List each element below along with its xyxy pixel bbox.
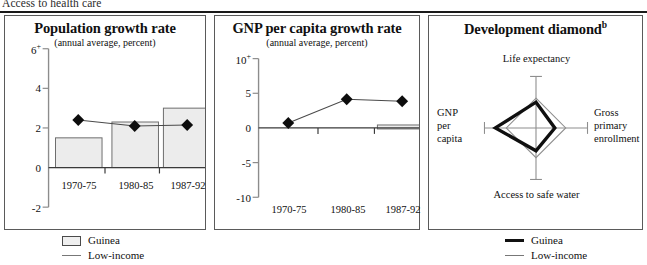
legend-left-row-guinea: Guinea (62, 233, 144, 248)
population-ylabel-2: 2 (7, 122, 41, 134)
legend-right: Guinea Low-income (505, 233, 587, 263)
page-top-caption: Access to health care (2, 0, 101, 9)
population-xlabel-1987-92: 1987-92 (157, 180, 219, 191)
legend-left-lowincome-label: Low-income (88, 249, 144, 262)
diamond-enrollment-line-3: enrollment (594, 132, 646, 145)
legend-right-guinea-label: Guinea (531, 234, 563, 247)
legend-left: Guinea Low-income (62, 233, 144, 263)
gnp-xlabel-1987-92: 1987-92 (372, 204, 434, 215)
diamond-axis-label-gnp-per-capita: GNP per capita (437, 106, 481, 145)
gnp-ylabel-0: 0 (215, 122, 251, 134)
population-bar-1970-75 (55, 138, 102, 168)
diamond-enrollment-line-2: primary (594, 119, 646, 132)
diamond-gnp-line-1: GNP (437, 106, 481, 119)
legend-thin-line-swatch-icon (505, 255, 524, 256)
diamond-enrollment-line-1: Gross (594, 106, 646, 119)
population-xlabel-1970-75: 1970-75 (48, 180, 110, 191)
diamond-gnp-line-2: per (437, 119, 481, 132)
top-horizontal-rule (0, 11, 647, 13)
legend-line-swatch-icon (62, 255, 81, 256)
population-marker-1970-75 (72, 114, 84, 126)
gnp-ylabel-minus10: -10 (215, 192, 251, 204)
population-bar-1987-92 (163, 108, 205, 167)
diamond-gnp-line-3: capita (437, 132, 481, 145)
legend-left-row-lowincome: Low-income (62, 248, 144, 263)
population-ylabel-4: 4 (7, 82, 41, 94)
diamond-axis-label-life-expectancy: Life expectancy (429, 52, 644, 65)
population-ylabel-minus2: -2 (7, 202, 41, 214)
legend-thick-line-swatch-icon (505, 239, 524, 242)
panel-gnp-per-capita-growth-rate: GNP per capita growth rate (annual avera… (214, 15, 420, 230)
legend-right-row-guinea: Guinea (505, 233, 587, 248)
legend-right-lowincome-label: Low-income (531, 249, 587, 262)
diamond-axis-label-access-to-safe-water: Access to safe water (429, 188, 644, 201)
gnp-marker-1987-92 (396, 95, 408, 107)
panel-development-diamond: Development diamondb Life expectancy Acc… (428, 15, 643, 230)
diamond-guinea-shape (495, 102, 554, 151)
panel-population-growth-rate: Population growth rate (annual average, … (4, 15, 206, 230)
population-ylabel-6: 6+ (7, 42, 41, 56)
gnp-marker-1970-75 (282, 117, 294, 129)
gnp-marker-1980-85 (341, 93, 353, 105)
gnp-xlabel-1970-75: 1970-75 (258, 204, 320, 215)
gnp-ylabel-5: 5 (215, 87, 251, 99)
gnp-xlabel-1980-85: 1980-85 (317, 204, 379, 215)
diamond-axis-label-gross-primary-enrollment: Gross primary enrollment (594, 106, 646, 145)
population-ylabel-0: 0 (7, 162, 41, 174)
gnp-ylabel-minus5: -5 (215, 157, 251, 169)
legend-left-guinea-label: Guinea (88, 234, 120, 247)
gnp-ylabel-10: 10+ (215, 52, 251, 66)
legend-right-row-lowincome: Low-income (505, 248, 587, 263)
legend-bar-swatch-icon (62, 236, 81, 246)
